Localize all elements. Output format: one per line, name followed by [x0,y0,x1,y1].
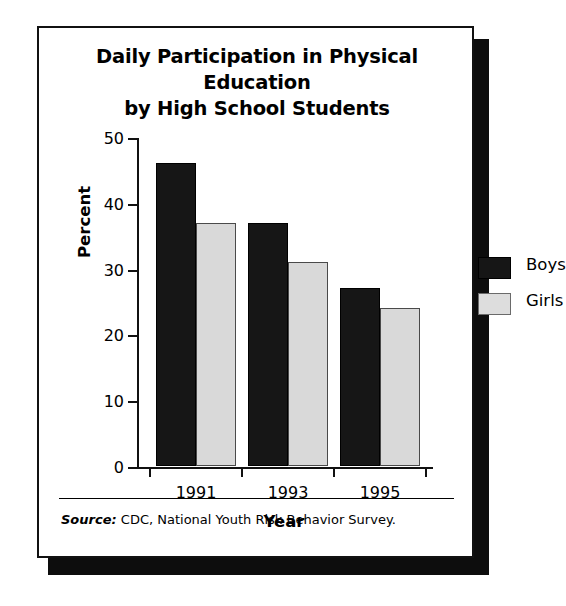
y-axis-title: Percent [75,186,94,258]
legend-label: Boys [526,255,566,274]
bar-boys-1995 [340,288,380,466]
legend-swatch-icon [478,293,511,315]
x-axis-tick [241,469,243,477]
y-axis-tick [128,401,137,403]
x-axis-tick [425,469,427,477]
chart-title-line-2: by High School Students [53,96,461,122]
y-axis-tick-label: 40 [104,194,124,213]
y-axis-tick-label: 0 [114,458,124,477]
x-axis-tick-label: 1993 [268,483,309,502]
bar-girls-1993 [288,262,328,466]
source-divider [59,498,454,499]
legend-swatch-icon [478,257,511,279]
figure-container: Daily Participation in Physical Educatio… [37,26,478,562]
bar-girls-1991 [196,223,236,466]
bar-boys-1991 [156,163,196,466]
source-text: CDC, National Youth Risk Behavior Survey… [117,512,396,527]
y-axis-line [137,138,139,468]
y-axis-tick-label: 10 [104,392,124,411]
figure-panel: Daily Participation in Physical Educatio… [37,26,474,558]
chart-title: Daily Participation in Physical Educatio… [53,44,461,122]
x-axis-line [137,467,433,469]
y-axis-tick [128,335,137,337]
y-axis-tick-label: 50 [104,129,124,148]
y-axis-tick [128,204,137,206]
y-axis-tick-label: 30 [104,260,124,279]
y-axis-tick-label: 20 [104,326,124,345]
x-axis-tick [149,469,151,477]
source-keyword: Source: [61,512,117,527]
plot-area: 01020304050 Percent 199119931995 Year Bo… [137,138,431,467]
bar-boys-1993 [248,223,288,466]
chart-title-line-1: Daily Participation in Physical Educatio… [96,45,418,94]
x-axis-tick [333,469,335,477]
x-axis-tick-label: 1995 [360,483,401,502]
bar-girls-1995 [380,308,420,466]
y-axis-tick [128,138,137,140]
y-axis-tick [128,467,137,469]
y-axis-tick [128,270,137,272]
source-note: Source: CDC, National Youth Risk Behavio… [61,512,396,527]
legend-label: Girls [526,291,563,310]
x-axis-tick-label: 1991 [176,483,217,502]
